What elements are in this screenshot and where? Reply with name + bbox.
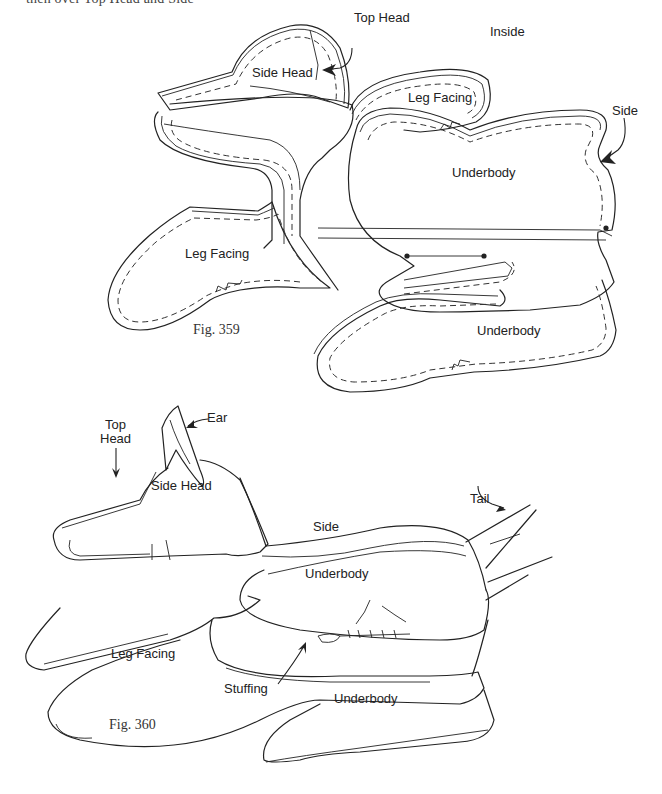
stuffing-arrow (278, 646, 304, 684)
label-side-head-360: Side Head (151, 478, 212, 493)
label-ear: Ear (207, 410, 227, 425)
label-top-head-360: Top Head (100, 418, 131, 446)
label-top-head-360-line1: Top (100, 418, 131, 432)
label-underbody-upper-360: Underbody (305, 566, 369, 581)
side-head-shape (53, 460, 268, 560)
label-leg-facing-360: Leg Facing (111, 646, 175, 661)
figure-360-drawing (0, 0, 662, 794)
ear-shape (162, 406, 204, 486)
label-underbody-lower-360: Underbody (334, 691, 398, 706)
figure-360-caption: Fig. 360 (109, 717, 156, 733)
tail-shape (466, 505, 552, 600)
label-tail: Tail (470, 491, 490, 506)
label-stuffing: Stuffing (224, 681, 268, 696)
label-top-head-360-line2: Head (100, 432, 131, 446)
label-side-360: Side (313, 519, 339, 534)
